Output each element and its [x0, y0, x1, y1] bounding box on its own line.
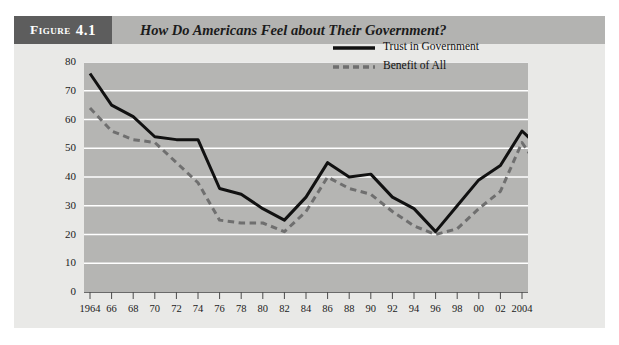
- y-tick-label: 10: [50, 256, 76, 268]
- figure-badge-word: Figure: [30, 22, 71, 38]
- figure-panel: Figure 4.1 How Do Americans Feel about T…: [14, 16, 605, 328]
- legend-swatch-dashed: [332, 59, 376, 71]
- legend-item-benefit: Benefit of All: [332, 55, 479, 74]
- y-tick-label: 60: [50, 113, 76, 125]
- series-line-benefit: [90, 108, 528, 235]
- legend-line-dashed-icon: [332, 61, 376, 73]
- y-tick-label: 40: [50, 170, 76, 182]
- legend-swatch-solid: [332, 40, 376, 52]
- legend-item-trust: Trust in Government: [332, 36, 479, 55]
- y-tick-label: 20: [50, 228, 76, 240]
- chart-legend: Trust in Government Benefit of All: [332, 36, 479, 74]
- y-tick-label: 70: [50, 84, 76, 96]
- figure-badge-number: 4.1: [76, 22, 96, 39]
- line-chart: [84, 62, 528, 292]
- legend-line-solid-icon: [332, 42, 376, 54]
- legend-label-trust: Trust in Government: [383, 40, 479, 52]
- plot-area: [84, 62, 528, 292]
- legend-label-benefit: Benefit of All: [383, 59, 446, 71]
- figure-number-badge: Figure 4.1: [14, 16, 112, 44]
- x-axis-ticks: [84, 292, 528, 301]
- y-tick-label: 30: [50, 199, 76, 211]
- y-tick-label: 50: [50, 141, 76, 153]
- y-tick-label: 80: [50, 55, 76, 67]
- x-tick-label: 2004: [505, 303, 539, 314]
- y-tick-label: 0: [50, 285, 76, 297]
- figure-page: Figure 4.1 How Do Americans Feel about T…: [0, 0, 619, 345]
- figure-header-bar: Figure 4.1 How Do Americans Feel about T…: [14, 16, 605, 44]
